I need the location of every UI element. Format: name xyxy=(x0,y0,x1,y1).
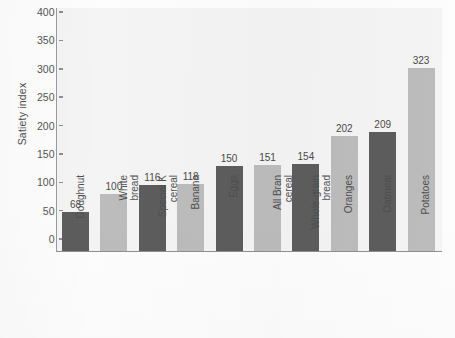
y-axis-tick: 350 xyxy=(37,34,57,46)
y-axis-tick-label: 400 xyxy=(37,6,59,18)
x-axis-category-label: Potatoes xyxy=(420,175,431,257)
x-axis-category-label: All Bran cereal xyxy=(272,175,294,257)
bar-value-label: 209 xyxy=(374,119,391,130)
y-axis-tick: 300 xyxy=(37,63,57,75)
y-axis-tick: 0 xyxy=(49,233,57,245)
x-axis-category-label: Oranges xyxy=(343,175,354,257)
bar-value-label: 154 xyxy=(298,151,315,162)
y-axis-tick-label: 350 xyxy=(37,34,59,46)
y-axis-tick-label: 100 xyxy=(37,176,59,188)
bar-value-label: 150 xyxy=(221,153,238,164)
x-axis-category-label: Oatmeal xyxy=(382,175,393,257)
bar-value-label: 323 xyxy=(413,55,430,66)
x-axis-category-label: Eggs xyxy=(228,175,239,257)
x-axis-category-label: Whole-grain bread xyxy=(310,175,332,257)
satiety-index-bar-chart: Satiety index 050100150200250300350400 6… xyxy=(0,0,455,338)
bar-value-label: 151 xyxy=(259,152,276,163)
y-axis-tick-label: 200 xyxy=(37,120,59,132)
y-axis-tick-label: 50 xyxy=(43,205,59,217)
y-axis-tick: 200 xyxy=(37,120,57,132)
y-axis-tick-label: 250 xyxy=(37,91,59,103)
y-axis-tick-label: 150 xyxy=(37,148,59,160)
y-axis-tick: 50 xyxy=(43,205,57,217)
x-axis-category-label: Special K cereal xyxy=(157,175,179,257)
x-axis-category-label: Doughnut xyxy=(75,175,86,257)
x-axis-category-label: White bread xyxy=(118,175,140,257)
x-axis-category-label: Banana xyxy=(190,175,201,257)
bar-value-label: 202 xyxy=(336,123,353,134)
y-axis-tick: 400 xyxy=(37,6,57,18)
y-axis-tick: 150 xyxy=(37,148,57,160)
y-axis-tick-label: 300 xyxy=(37,63,59,75)
y-axis-title: Satiety index xyxy=(16,54,28,174)
y-axis-tick-label: 0 xyxy=(49,233,59,245)
y-axis-tick: 100 xyxy=(37,176,57,188)
y-axis-tick: 250 xyxy=(37,91,57,103)
